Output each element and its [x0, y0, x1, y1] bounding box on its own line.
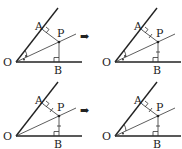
- label-A: A: [133, 94, 143, 107]
- label-P: P: [156, 27, 164, 40]
- label-O: O: [102, 56, 111, 69]
- arrow-icon: ➡: [80, 30, 89, 43]
- label-A: A: [34, 20, 44, 33]
- label-P: P: [156, 101, 164, 114]
- label-A: A: [133, 20, 143, 33]
- angle-mark: [23, 59, 25, 61]
- label-P: P: [57, 27, 65, 40]
- panel-top-right: A P O B: [102, 8, 181, 77]
- label-B: B: [153, 64, 161, 77]
- label-A: A: [34, 94, 44, 107]
- label-B: B: [54, 138, 62, 149]
- label-B: B: [153, 138, 161, 149]
- panel-top-left: A P O B: [3, 8, 82, 77]
- angle-mark: [122, 59, 124, 61]
- panel-bottom-right: A P O B: [102, 82, 181, 149]
- label-P: P: [57, 101, 65, 114]
- label-O: O: [3, 130, 12, 143]
- label-B: B: [54, 64, 62, 77]
- diagram-canvas: A P O B ➡ A P O B A P O B ➡ A P O B: [0, 0, 182, 149]
- angle-mark: [122, 133, 124, 135]
- panel-bottom-left: A P O B: [3, 82, 82, 149]
- label-O: O: [102, 130, 111, 143]
- arrow-icon: ➡: [80, 104, 89, 117]
- angle-arc: [124, 124, 126, 131]
- label-O: O: [3, 56, 12, 69]
